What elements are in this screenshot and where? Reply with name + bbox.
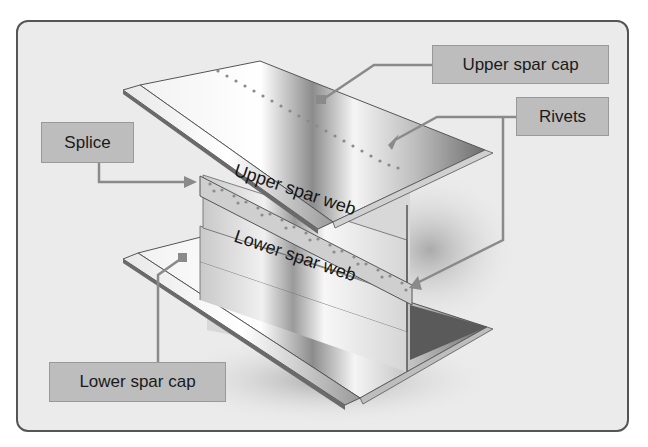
label-text: Lower spar cap: [79, 372, 195, 392]
label-lower-spar-cap: Lower spar cap: [49, 362, 226, 402]
label-splice: Splice: [41, 122, 134, 163]
label-upper-spar-cap: Upper spar cap: [432, 45, 609, 84]
label-text: Upper spar cap: [462, 55, 578, 75]
label-text: Rivets: [539, 107, 586, 127]
label-text: Splice: [64, 133, 110, 153]
label-rivets: Rivets: [516, 97, 609, 136]
